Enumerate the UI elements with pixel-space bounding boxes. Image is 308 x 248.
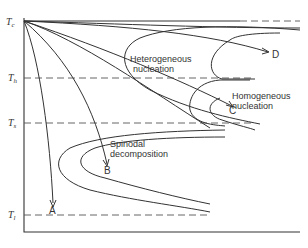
heterogeneous-label: Heterogeneous [130, 54, 192, 64]
ttt-diagram: Tc Th Ts Tl Heterogeneous nucleation Hom… [0, 0, 308, 248]
homogeneous-label-2: nucleation [232, 101, 273, 111]
axes [24, 18, 300, 232]
th-label: Th [8, 72, 18, 85]
path-b [24, 21, 107, 164]
tl-label: Tl [8, 209, 16, 222]
heterogeneous-label-2: nucleation [133, 64, 174, 74]
label-a: A [49, 205, 56, 216]
tc-label: Tc [6, 16, 16, 29]
spinodal-label: Spinodal [110, 139, 145, 149]
heterogeneous-nucleation-curve [125, 27, 300, 124]
label-c: C [229, 105, 236, 116]
path-a [24, 21, 53, 203]
ts-label: Ts [8, 117, 17, 130]
spinodal-label-2: decomposition [110, 149, 168, 159]
connector-curve [24, 21, 210, 128]
label-d: D [272, 49, 279, 60]
homogeneous-label: Homogeneous [232, 91, 291, 101]
label-b: B [104, 165, 111, 176]
heterogeneous-completion-curve [211, 33, 280, 79]
